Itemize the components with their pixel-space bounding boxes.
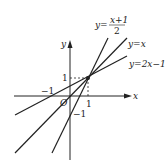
coordinate-diagram: x y 1 1 −1 −1 O y= x+1 2 y=x y=2x−1 (0, 0, 165, 168)
tick-y-1: 1 (62, 73, 68, 83)
label-x-plus-1-over-2-denominator: 2 (114, 26, 120, 36)
y-axis-label: y (60, 39, 67, 49)
label-x-plus-1-over-2-prefix: y= (94, 20, 108, 30)
tick-x-1: 1 (86, 99, 92, 109)
x-axis-label: x (133, 91, 138, 101)
origin-label: O (60, 98, 68, 108)
line-x-plus-1-over-2 (15, 56, 127, 115)
tick-x-neg-1: −1 (41, 86, 54, 96)
x-axis-arrow-icon (124, 94, 132, 99)
label-x-plus-1-over-2-numerator: x+1 (110, 15, 128, 25)
tick-y-neg-1: −1 (73, 109, 86, 119)
label-2x-minus-1: y=2x−1 (128, 59, 165, 69)
intersection-point (86, 76, 90, 80)
label-y-equals-x: y=x (127, 39, 146, 49)
y-axis-arrow-icon (68, 40, 73, 48)
